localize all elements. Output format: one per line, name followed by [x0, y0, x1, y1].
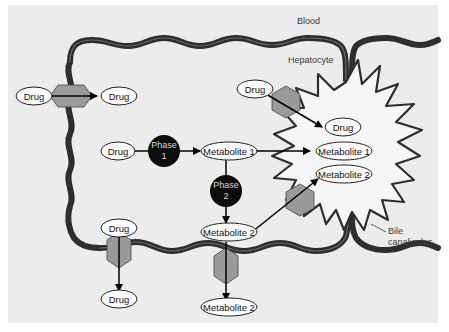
svg-text:Drug: Drug	[109, 223, 130, 234]
node-blood-drug-out: Drug	[101, 87, 137, 105]
blood-label: Blood	[297, 16, 320, 26]
svg-text:Drug: Drug	[109, 294, 130, 305]
hepatic-drug-metabolism-diagram: Blood Hepatocyte Bile canaliculus	[0, 0, 449, 332]
phase1-node: Phase 1	[148, 135, 180, 167]
bile-canaliculus-label-2: canaliculus	[388, 237, 433, 247]
node-blood-drug-in: Drug	[16, 87, 52, 105]
node-bottom-drug-out: Drug	[101, 290, 137, 308]
svg-text:Phase: Phase	[151, 140, 177, 150]
node-canal-metabolite2: Metabolite 2	[316, 165, 372, 183]
svg-text:1: 1	[161, 151, 166, 161]
node-bottom-metabolite2-out: Metabolite 2	[201, 298, 257, 316]
node-metabolite2: Metabolite 2	[201, 223, 257, 241]
svg-text:Drug: Drug	[108, 146, 129, 157]
phase2-node: Phase 2	[210, 175, 242, 207]
svg-text:Metabolite 1: Metabolite 1	[318, 146, 370, 157]
svg-text:Phase: Phase	[213, 180, 239, 190]
svg-text:Metabolite 1: Metabolite 1	[203, 146, 255, 157]
svg-text:Drug: Drug	[333, 122, 354, 133]
svg-text:Metabolite 2: Metabolite 2	[203, 227, 255, 238]
hepatocyte-label: Hepatocyte	[288, 55, 334, 65]
svg-text:2: 2	[223, 191, 228, 201]
svg-text:Drug: Drug	[245, 84, 266, 95]
svg-text:Metabolite 2: Metabolite 2	[203, 302, 255, 313]
svg-text:Metabolite 2: Metabolite 2	[318, 169, 370, 180]
bile-canaliculus-label-1: Bile	[388, 226, 403, 236]
node-metabolite1: Metabolite 1	[201, 142, 257, 160]
node-canal-drug-source: Drug	[237, 80, 273, 98]
node-canal-drug: Drug	[325, 118, 361, 136]
node-cell-drug: Drug	[101, 142, 135, 160]
svg-text:Drug: Drug	[24, 91, 45, 102]
node-bottom-drug-in: Drug	[101, 219, 137, 237]
svg-text:Drug: Drug	[109, 91, 130, 102]
node-canal-metabolite1: Metabolite 1	[316, 142, 372, 160]
